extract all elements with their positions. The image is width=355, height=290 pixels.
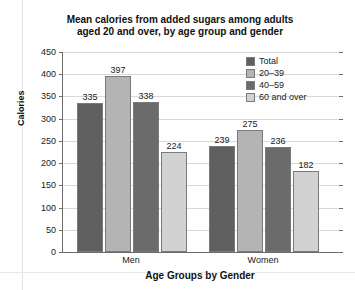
legend-swatch-icon — [246, 81, 255, 90]
y-axis-tick-label: 400 — [41, 69, 56, 79]
bar: 224 — [161, 152, 187, 252]
chart-title: Mean calories from added sugars among ad… — [30, 14, 330, 38]
y-axis-tick-label: 450 — [41, 47, 56, 57]
legend-swatch-icon — [246, 57, 255, 66]
y-axis-tick-label: 100 — [41, 203, 56, 213]
y-axis-tick — [59, 74, 63, 75]
y-axis-tick-label: 300 — [41, 114, 56, 124]
y-axis-tick-right — [339, 96, 343, 97]
y-axis-tick-label: 350 — [41, 91, 56, 101]
y-axis-tick-label: 250 — [41, 136, 56, 146]
legend-item: Total — [246, 55, 307, 67]
y-axis-tick-right — [339, 119, 343, 120]
chart-legend: Total20–3940–5960 and over — [246, 55, 307, 103]
frame-left-border — [22, 0, 23, 290]
y-axis-tick — [59, 185, 63, 186]
y-axis-tick-right — [339, 185, 343, 186]
bar-value-label: 275 — [242, 119, 257, 129]
y-axis-tick — [59, 208, 63, 209]
legend-item-label: 60 and over — [259, 92, 307, 102]
y-axis-title: Calories — [16, 90, 26, 126]
bar: 182 — [293, 171, 319, 252]
y-axis-tick-label: 200 — [41, 158, 56, 168]
chart-title-line-2: aged 20 and over, by age group and gende… — [30, 26, 330, 38]
y-axis-tick — [59, 119, 63, 120]
legend-item-label: 20–39 — [259, 68, 284, 78]
y-axis-tick-right — [339, 141, 343, 142]
bar-value-label: 224 — [166, 141, 181, 151]
bar-value-label: 182 — [298, 160, 313, 170]
y-axis-tick-label: 0 — [51, 247, 56, 257]
bar-value-label: 335 — [82, 92, 97, 102]
y-axis-tick-right — [339, 163, 343, 164]
y-axis-tick — [59, 230, 63, 231]
legend-swatch-icon — [246, 69, 255, 78]
bar: 236 — [265, 147, 291, 252]
legend-item: 40–59 — [246, 79, 307, 91]
y-axis-tick — [59, 96, 63, 97]
legend-swatch-icon — [246, 93, 255, 102]
y-axis-tick — [59, 141, 63, 142]
bar: 335 — [77, 103, 103, 252]
chart-container: Mean calories from added sugars among ad… — [0, 0, 355, 290]
bar: 397 — [105, 76, 131, 252]
legend-item: 20–39 — [246, 67, 307, 79]
chart-title-line-1: Mean calories from added sugars among ad… — [67, 14, 294, 25]
y-axis-tick-right — [339, 230, 343, 231]
gridline — [63, 52, 339, 53]
legend-item: 60 and over — [246, 91, 307, 103]
group-label-women: Women — [248, 255, 279, 265]
bar-value-label: 338 — [138, 91, 153, 101]
y-axis-tick-label: 150 — [41, 180, 56, 190]
y-axis-tick — [59, 163, 63, 164]
bar-value-label: 239 — [214, 135, 229, 145]
bar: 338 — [133, 102, 159, 252]
group-label-men: Men — [122, 255, 140, 265]
y-axis-tick — [59, 52, 63, 53]
y-axis-tick-right — [339, 208, 343, 209]
y-axis-tick — [59, 252, 63, 253]
x-axis-title: Age Groups by Gender — [62, 270, 338, 281]
bar: 239 — [209, 146, 235, 252]
y-axis-tick-right — [339, 252, 343, 253]
y-axis-tick-right — [339, 74, 343, 75]
legend-item-label: Total — [259, 56, 278, 66]
y-axis-tick-right — [339, 52, 343, 53]
bar-value-label: 397 — [110, 65, 125, 75]
bar-value-label: 236 — [270, 136, 285, 146]
y-axis-tick-label: 50 — [46, 225, 56, 235]
legend-item-label: 40–59 — [259, 80, 284, 90]
bar: 275 — [237, 130, 263, 252]
